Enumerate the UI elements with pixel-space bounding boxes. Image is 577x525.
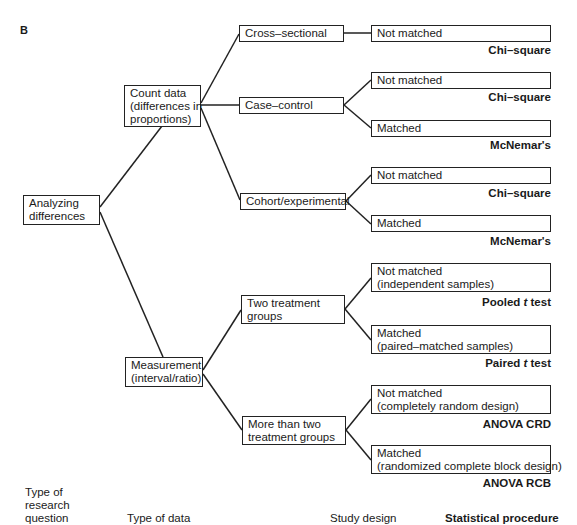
node-two-treatment-groups: Two treatment groups [241,295,345,324]
node-line: Not matched [377,74,545,87]
procedure-anova-rcb: ANOVA RCB [351,477,551,489]
leaf-cohort-not-matched: Not matched [371,167,551,184]
footer-type-of-data: Type of data [127,512,190,525]
node-line: Matched [377,447,545,460]
leaf-two-matched: Matched (paired–matched samples) [371,325,551,354]
footer-study-design: Study design [330,512,397,525]
node-cohort-experimental: Cohort/experimental [240,193,346,210]
leaf-more-matched: Matched (randomized complete block desig… [371,445,551,474]
node-line: Cross–sectional [245,27,338,40]
node-line: More than two [248,418,340,431]
procedure-text: Pooled [482,296,524,308]
node-cross-sectional: Cross–sectional [239,25,344,42]
node-line: Two treatment [247,297,339,310]
node-line: Cohort/experimental [246,195,340,208]
procedure-chi-square: Chi–square [351,44,551,56]
node-line: Matched [377,122,545,135]
node-line: Not matched [377,387,545,400]
node-line: (independent samples) [377,278,545,291]
node-line: Measurement [131,359,197,372]
procedure-chi-square: Chi–square [351,91,551,103]
procedure-text: test [527,296,551,308]
leaf-two-not-matched: Not matched (independent samples) [371,263,551,292]
node-line: Count data [130,87,195,100]
leaf-case-matched: Matched [371,120,551,137]
node-analyzing-differences: Analyzing differences [23,195,100,225]
footer-line: question [25,512,70,525]
node-line: groups [247,310,339,323]
node-line: Not matched [377,169,545,182]
procedure-mcnemar: McNemar's [351,235,551,247]
leaf-case-not-matched: Not matched [371,72,551,89]
procedure-chi-square: Chi–square [351,187,551,199]
procedure-paired-t-test: Paired t test [351,357,551,369]
footer-line: Type of [25,486,70,499]
procedure-mcnemar: McNemar's [351,139,551,151]
procedure-text: test [527,357,551,369]
node-case-control: Case–control [239,97,344,114]
procedure-pooled-t-test: Pooled t test [351,296,551,308]
node-line: proportions) [130,113,195,126]
procedure-text: Paired [485,357,523,369]
footer-research-question: Type of research question [25,486,70,525]
node-line: (randomized complete block design) [377,460,545,473]
leaf-cohort-matched: Matched [371,215,551,232]
leaf-cross-not-matched: Not matched [371,25,551,42]
node-count-data: Count data (differences in proportions) [124,85,201,127]
footer-statistical-procedure: Statistical procedure [445,512,559,525]
node-line: Matched [377,327,545,340]
node-line: Analyzing [29,197,94,210]
node-line: Not matched [377,27,545,40]
node-line: (interval/ratio) [131,372,197,385]
node-line: (differences in [130,100,195,113]
footer-line: research [25,499,70,512]
node-line: Matched [377,217,545,230]
leaf-more-not-matched: Not matched (completely random design) [371,385,551,414]
panel-label: B [20,24,28,36]
node-line: Case–control [245,99,338,112]
node-line: Not matched [377,265,545,278]
node-line: differences [29,210,94,223]
procedure-anova-crd: ANOVA CRD [351,418,551,430]
node-line: (paired–matched samples) [377,340,545,353]
node-measurement: Measurement (interval/ratio) [125,357,203,387]
node-line: treatment groups [248,431,340,444]
node-line: (completely random design) [377,400,545,413]
node-more-than-two-groups: More than two treatment groups [242,416,346,445]
